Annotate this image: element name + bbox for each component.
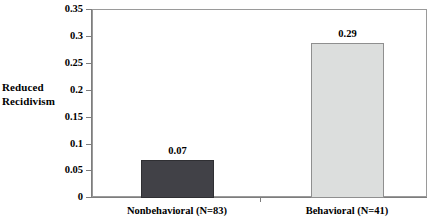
bar-behavioral[interactable] — [311, 43, 384, 198]
data-label-behavioral: 0.29 — [311, 28, 384, 39]
y-tick-label: 0.25 — [35, 57, 83, 68]
x-category-label-nonbehavioral: Nonbehavioral (N=83) — [97, 205, 257, 216]
y-tick-mark — [86, 9, 91, 10]
y-tick-label: 0.3 — [35, 30, 83, 41]
y-axis-line — [91, 9, 92, 198]
y-tick-mark — [86, 117, 91, 118]
x-category-label-behavioral: Behavioral (N=41) — [277, 205, 417, 216]
y-tick-label: 0.2 — [35, 84, 83, 95]
y-tick-mark — [86, 36, 91, 37]
y-tick-label: 0 — [35, 191, 83, 202]
y-tick-mark — [86, 144, 91, 145]
y-axis-title-line-2: Recidivism — [2, 94, 66, 108]
y-tick-mark — [86, 63, 91, 64]
x-tick-mark — [260, 197, 261, 202]
data-label-nonbehavioral: 0.07 — [141, 145, 214, 156]
y-tick-label: 0.05 — [35, 164, 83, 175]
y-tick-mark — [86, 197, 91, 198]
y-tick-label: 0.35 — [35, 3, 83, 14]
bar-nonbehavioral[interactable] — [141, 160, 214, 198]
bar-chart-figure: Reduced Recidivism 0.35 0.3 0.25 0.2 0.1… — [0, 0, 435, 224]
y-tick-mark — [86, 170, 91, 171]
y-tick-mark — [86, 90, 91, 91]
y-tick-label: 0.1 — [35, 138, 83, 149]
y-tick-label: 0.15 — [35, 111, 83, 122]
